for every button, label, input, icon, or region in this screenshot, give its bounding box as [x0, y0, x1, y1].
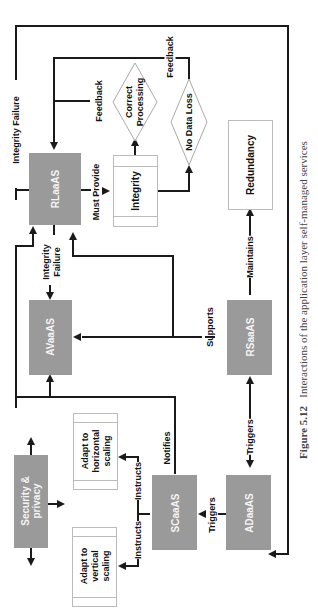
arrow-down	[46, 292, 54, 300]
maintains-label: Maintains	[245, 236, 256, 278]
instructs-label-2: Instructs	[133, 521, 144, 559]
connector	[73, 255, 174, 257]
arrow-left	[198, 510, 206, 518]
must-provide-label: Must Provide	[91, 164, 102, 221]
no-data-loss-label: No Data Loss	[184, 93, 195, 151]
connector	[55, 100, 90, 102]
instructs-label-1: Instructs	[133, 462, 144, 500]
connector	[15, 25, 289, 27]
connector	[125, 565, 139, 567]
connector	[172, 255, 174, 337]
integrity-failure-top-label: Integrity Failure	[11, 96, 22, 164]
arrow-left	[118, 562, 126, 570]
scaaas-label: SCaaAS	[170, 494, 181, 533]
rsaaas-label: RSaaAS	[245, 318, 256, 357]
arrow-right	[57, 500, 65, 508]
connector	[158, 190, 188, 192]
triggers-label-2: Triggers	[207, 497, 218, 533]
arrow-left	[73, 333, 81, 341]
connector	[174, 396, 176, 474]
supports-label: Supports	[205, 307, 216, 347]
vertical-scaling-label: Adapt to vertical scaling	[79, 548, 112, 585]
feedback-label-1: Feedback	[94, 80, 105, 122]
arrow-up	[46, 374, 54, 382]
arrow-down	[50, 142, 58, 150]
figure-number: Figure 5.12	[297, 406, 309, 459]
redundancy-label: Redundancy	[245, 135, 256, 195]
arrow-down	[246, 460, 254, 468]
arrow-up	[246, 376, 254, 384]
correct-processing-label: Correct Processing	[124, 78, 146, 127]
horizontal-scaling-label: Adapt to horizontal scaling	[80, 430, 113, 473]
integrity-label: Integrity	[130, 171, 141, 210]
arrow-left	[118, 453, 126, 461]
connector	[15, 396, 175, 398]
feedback-label-2: Feedback	[165, 36, 176, 78]
arrow-up	[69, 232, 77, 240]
avaaas-label: AVaaAS	[45, 318, 56, 356]
connector	[15, 245, 17, 408]
arrow-right	[102, 187, 110, 195]
connector	[15, 245, 32, 247]
connector	[32, 232, 34, 247]
connector	[81, 189, 91, 191]
triggers-label-1: Triggers	[245, 419, 256, 455]
connector	[188, 172, 190, 192]
arrow-up	[185, 165, 193, 173]
connector	[82, 336, 202, 338]
connector	[15, 189, 29, 191]
connector	[125, 456, 139, 458]
arrow-up	[27, 437, 35, 445]
security-label: Security & privacy	[20, 476, 42, 525]
arrow-up	[29, 226, 37, 234]
notifies-label: Notifies	[162, 431, 173, 464]
connector	[15, 25, 17, 80]
integrity-failure-mid-label: Integrity Failure	[41, 244, 63, 280]
connector	[53, 225, 55, 235]
connector	[72, 237, 74, 257]
arrow-down	[27, 558, 35, 566]
arrow-left	[268, 550, 276, 558]
adaaas-label: ADaaAS	[244, 493, 255, 532]
figure-caption: Figure 5.12 Interactions of the applicat…	[298, 141, 309, 459]
connector	[188, 57, 190, 79]
connector	[49, 380, 51, 397]
figure-caption-text: Interactions of the application layer se…	[297, 141, 309, 398]
connector	[287, 25, 289, 555]
rlaaas-label: RLaaAS	[50, 170, 61, 208]
